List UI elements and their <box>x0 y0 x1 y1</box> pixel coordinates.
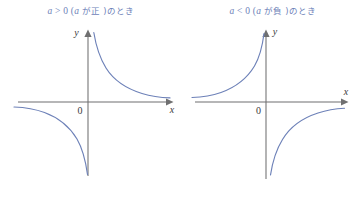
x-axis-label: x <box>169 104 175 115</box>
panel-a-positive: a > 0 (a が正 )のとき y x 0 <box>0 0 182 203</box>
figure-root: a > 0 (a が正 )のとき y x 0 a < 0 (a が負 )のとき <box>0 0 364 203</box>
curve-branch-q4 <box>271 108 345 175</box>
panel-a-negative: a < 0 (a が負 )のとき y x 0 <box>182 0 364 203</box>
y-axis-arrowhead <box>84 30 91 38</box>
x-axis-arrowhead <box>341 98 349 105</box>
curve-branch-q1 <box>94 33 170 98</box>
origin-label: 0 <box>78 105 83 116</box>
plot-a-negative: y x 0 <box>182 0 364 203</box>
y-axis-label: y <box>73 27 79 38</box>
x-axis-label: x <box>343 86 349 97</box>
curve-branch-q3 <box>14 107 88 175</box>
y-axis-label: y <box>272 26 278 37</box>
curve-branch-q2 <box>192 34 264 98</box>
origin-label: 0 <box>256 105 261 116</box>
plot-a-positive: y x 0 <box>0 0 182 203</box>
